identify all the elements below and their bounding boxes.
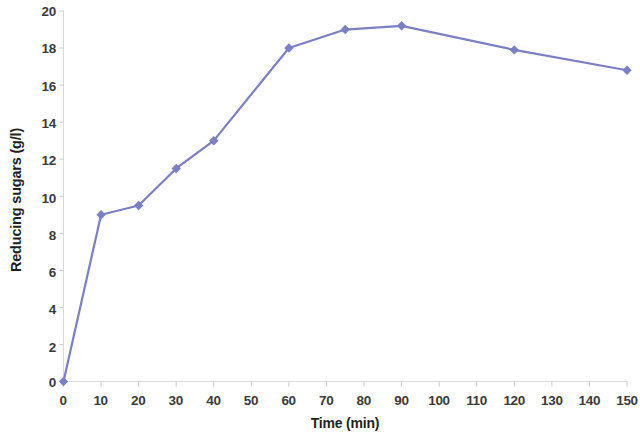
plot-area [0,0,640,437]
data-point-marker [622,66,631,75]
reducing-sugars-line-chart: Reducing sugars (g/l) 20 18 16 14 12 10 … [0,0,640,437]
series-line-reducing-sugars [64,26,628,382]
data-series-group [59,21,632,386]
data-point-marker [59,377,68,386]
data-point-marker [341,25,350,34]
x-axis-ticks [64,382,628,387]
series-markers-reducing-sugars [59,21,632,386]
data-point-marker [96,210,105,219]
y-axis-ticks [60,11,64,382]
data-point-marker [397,21,406,30]
data-point-marker [510,45,519,54]
